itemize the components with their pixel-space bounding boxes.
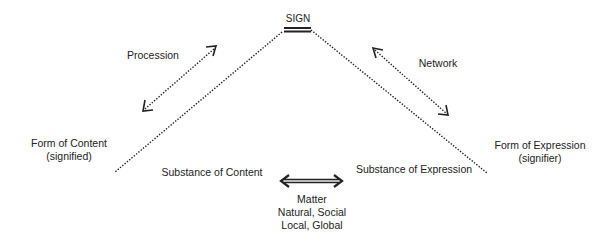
form-of-expression-text: Form of Expression <box>484 139 596 152</box>
network-label-text: Network <box>410 57 466 70</box>
substance-of-content-label: Substance of Content <box>155 166 269 179</box>
sign-label-text: SIGN <box>278 12 318 25</box>
signifier-text: (signifier) <box>484 152 596 165</box>
sign-double-bar <box>284 27 311 33</box>
signified-text: (signified) <box>19 150 119 163</box>
substance-of-expression-text: Substance of Expression <box>350 163 478 176</box>
form-of-content-label: Form of Content (signified) <box>19 137 119 163</box>
local-global-text: Local, Global <box>262 219 362 232</box>
substance-of-expression-label: Substance of Expression <box>350 163 478 176</box>
substance-of-content-text: Substance of Content <box>155 166 269 179</box>
sign-label: SIGN <box>278 12 318 25</box>
matter-text: Matter <box>262 193 362 206</box>
form-of-expression-label: Form of Expression (signifier) <box>484 139 596 165</box>
natural-social-text: Natural, Social <box>262 206 362 219</box>
matter-label: Matter Natural, Social Local, Global <box>262 193 362 232</box>
network-label: Network <box>410 57 466 70</box>
procession-label-text: Procession <box>118 49 188 62</box>
procession-label: Procession <box>118 49 188 62</box>
form-of-content-text: Form of Content <box>19 137 119 150</box>
expression-dotted-line <box>311 30 487 173</box>
matter-arrow-icon <box>281 175 342 187</box>
